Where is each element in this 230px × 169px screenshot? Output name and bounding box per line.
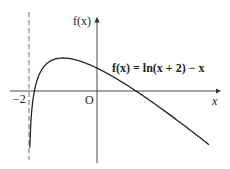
function-label: f(x) = ln(x + 2) − x	[112, 61, 205, 75]
function-graph: f(x) f(x) = ln(x + 2) − x −2 O x	[0, 0, 230, 169]
y-axis-label: f(x)	[73, 14, 91, 28]
x-axis-label: x	[211, 94, 218, 108]
origin-label: O	[85, 93, 94, 107]
asymptote-label: −2	[13, 92, 26, 106]
